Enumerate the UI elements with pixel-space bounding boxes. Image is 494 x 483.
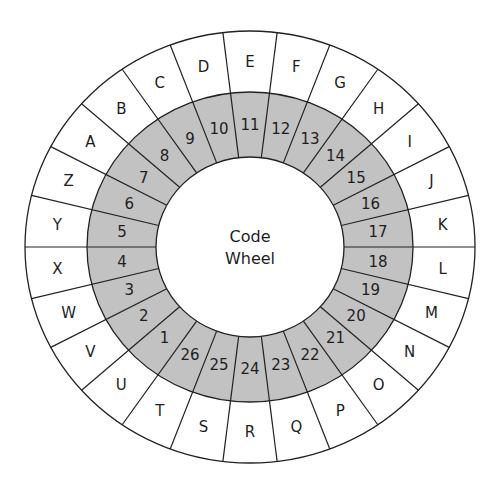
number-20: 20 bbox=[347, 307, 366, 325]
number-2: 2 bbox=[139, 307, 149, 325]
number-14: 14 bbox=[326, 147, 345, 165]
number-11: 11 bbox=[240, 116, 259, 134]
letter-d: D bbox=[198, 58, 210, 76]
wheel-title-line1: Code bbox=[230, 227, 271, 246]
center-disc bbox=[156, 157, 344, 337]
number-26: 26 bbox=[181, 346, 200, 364]
number-23: 23 bbox=[271, 356, 290, 374]
letter-t: T bbox=[154, 402, 165, 420]
number-4: 4 bbox=[117, 253, 127, 271]
letter-b: B bbox=[116, 100, 126, 118]
letter-g: G bbox=[334, 74, 346, 92]
letter-k: K bbox=[438, 216, 449, 234]
letter-n: N bbox=[404, 343, 415, 361]
number-22: 22 bbox=[300, 346, 319, 364]
letter-a: A bbox=[85, 133, 96, 151]
letter-z: Z bbox=[63, 172, 73, 190]
wheel-title-line2: Wheel bbox=[225, 249, 275, 268]
code-wheel: ABCDEFGHIJKLMNOPQRSTUVWXYZ 7891011121314… bbox=[0, 0, 494, 483]
number-16: 16 bbox=[361, 195, 380, 213]
letter-m: M bbox=[425, 304, 438, 322]
letter-h: H bbox=[373, 100, 384, 118]
number-3: 3 bbox=[125, 281, 135, 299]
letter-u: U bbox=[116, 376, 127, 394]
letter-s: S bbox=[199, 418, 209, 436]
number-6: 6 bbox=[125, 195, 135, 213]
number-24: 24 bbox=[240, 360, 259, 378]
letter-e: E bbox=[245, 53, 254, 71]
number-10: 10 bbox=[210, 120, 229, 138]
letter-l: L bbox=[438, 260, 447, 278]
number-12: 12 bbox=[271, 120, 290, 138]
letter-p: P bbox=[336, 402, 345, 420]
number-19: 19 bbox=[361, 281, 380, 299]
letter-w: W bbox=[61, 304, 76, 322]
letter-x: X bbox=[52, 260, 62, 278]
number-25: 25 bbox=[210, 356, 229, 374]
number-21: 21 bbox=[326, 329, 345, 347]
number-13: 13 bbox=[300, 130, 319, 148]
number-5: 5 bbox=[117, 223, 127, 241]
number-8: 8 bbox=[160, 147, 170, 165]
letter-j: J bbox=[428, 172, 433, 190]
letter-o: O bbox=[373, 376, 385, 394]
number-15: 15 bbox=[347, 169, 366, 187]
number-18: 18 bbox=[369, 253, 388, 271]
letter-f: F bbox=[292, 58, 301, 76]
letter-y: Y bbox=[52, 216, 63, 234]
letter-q: Q bbox=[291, 418, 303, 436]
number-17: 17 bbox=[369, 223, 388, 241]
number-9: 9 bbox=[185, 130, 195, 148]
letter-c: C bbox=[155, 74, 165, 92]
number-1: 1 bbox=[160, 329, 170, 347]
letter-v: V bbox=[85, 343, 96, 361]
letter-r: R bbox=[245, 423, 255, 441]
letter-i: I bbox=[407, 133, 411, 151]
number-7: 7 bbox=[139, 169, 149, 187]
